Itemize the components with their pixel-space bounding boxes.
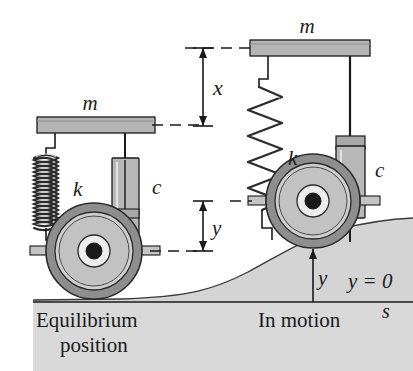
mass-block-right [250, 40, 370, 56]
diagram-canvas: x y y y = 0 s m m k k c c Equilibrium po… [0, 0, 413, 371]
label-k-left: k [73, 177, 83, 201]
system-equilibrium [30, 117, 205, 299]
label-datum: y = 0 [346, 269, 393, 293]
label-y-ground: y [316, 266, 328, 290]
caption-equilibrium-line2: position [60, 333, 128, 357]
label-s-axis: s [382, 300, 390, 322]
spring-hanger-left [46, 133, 55, 156]
suspension-diagram-figure: x y y y = 0 s m m k k c c Equilibrium po… [0, 0, 413, 371]
mass-block-left [37, 117, 155, 133]
label-c-left: c [152, 175, 162, 199]
label-m-left: m [82, 91, 97, 115]
label-x: x [212, 75, 223, 100]
label-k-right: k [288, 146, 298, 170]
label-m-right: m [299, 14, 314, 38]
dimension-y-upper: y [193, 201, 222, 251]
caption-in-motion: In motion [258, 308, 341, 332]
wheel-left [46, 203, 142, 299]
label-y-upper: y [210, 216, 222, 240]
dimension-x: x [193, 48, 223, 126]
caption-equilibrium-line1: Equilibrium [36, 308, 138, 332]
label-c-right: c [375, 158, 385, 182]
spring-hanger-right [259, 56, 268, 87]
spring-left [34, 154, 58, 230]
wheel-right [266, 154, 360, 248]
